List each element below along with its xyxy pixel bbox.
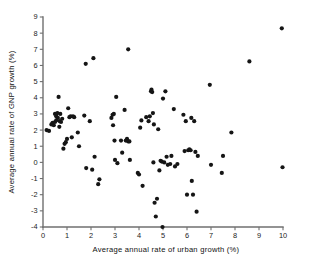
scatter-plot-figure: -4-3-2-10123456789 012345678910 Average … [0, 0, 312, 261]
data-point [156, 127, 160, 131]
y-tick-label: 9 [33, 12, 37, 21]
data-point [96, 182, 100, 186]
data-point [152, 122, 156, 126]
y-tick-label: -1 [31, 174, 38, 183]
data-point [111, 123, 115, 127]
y-tick-label: 6 [33, 61, 37, 70]
data-point [160, 225, 164, 229]
data-point [191, 193, 195, 197]
x-axis: 012345678910 [41, 227, 287, 240]
data-point [47, 129, 51, 133]
data-point [209, 163, 213, 167]
data-point [172, 107, 176, 111]
data-point [123, 108, 127, 112]
x-axis-ticks: 012345678910 [41, 227, 287, 240]
data-point [97, 177, 101, 181]
data-point [70, 135, 74, 139]
data-point [112, 112, 116, 116]
data-point [195, 210, 199, 214]
data-point [189, 116, 193, 120]
data-point [151, 160, 155, 164]
x-tick-label: 9 [257, 231, 261, 240]
data-point [161, 96, 165, 100]
y-tick-label: 7 [33, 45, 37, 54]
data-point [66, 106, 70, 110]
y-tick-label: 5 [33, 77, 37, 86]
data-point [181, 113, 185, 117]
data-point [139, 118, 143, 122]
data-point [221, 154, 225, 158]
data-point [88, 119, 92, 123]
y-tick-label: -3 [31, 206, 38, 215]
data-point [208, 83, 212, 87]
data-point [82, 113, 86, 117]
data-points-layer [45, 26, 285, 229]
x-tick-label: 5 [161, 231, 165, 240]
data-point [220, 171, 224, 175]
y-tick-label: 1 [33, 142, 37, 151]
data-point [126, 47, 130, 51]
data-point [90, 168, 94, 172]
data-point [190, 179, 194, 183]
data-point [144, 115, 148, 119]
x-axis-title: Average annual rate of urban growth (%) [93, 245, 240, 254]
data-point [128, 158, 132, 162]
data-point [183, 149, 187, 153]
data-point [280, 165, 284, 169]
x-tick-label: 7 [209, 231, 213, 240]
data-point [155, 197, 159, 201]
data-point [65, 137, 69, 141]
data-point [150, 90, 154, 94]
data-point [184, 119, 188, 123]
y-tick-label: 2 [33, 126, 37, 135]
data-point [147, 119, 151, 123]
data-point [193, 150, 197, 154]
data-point [115, 161, 119, 165]
data-point [185, 193, 189, 197]
data-point [141, 184, 145, 188]
y-tick-label: -2 [31, 190, 38, 199]
x-tick-label: 10 [279, 231, 287, 240]
data-point [247, 59, 251, 63]
y-tick-label: 3 [33, 109, 37, 118]
data-point [148, 114, 152, 118]
data-point [196, 154, 200, 158]
data-point [162, 160, 166, 164]
y-tick-label: 8 [33, 29, 37, 38]
data-point [175, 162, 179, 166]
data-point [58, 112, 62, 116]
data-point [57, 95, 61, 99]
data-point [57, 125, 61, 129]
data-point [163, 89, 167, 93]
data-point [280, 26, 284, 30]
data-point [229, 130, 233, 134]
data-point [192, 119, 196, 123]
data-point [154, 214, 158, 218]
data-point [60, 117, 64, 121]
y-tick-label: 0 [33, 158, 37, 167]
data-point [120, 151, 124, 155]
plot-canvas: -4-3-2-10123456789 012345678910 Average … [0, 0, 312, 261]
y-axis-ticks: -4-3-2-10123456789 [31, 12, 43, 231]
data-point [151, 111, 155, 115]
y-tick-label: -4 [31, 222, 38, 231]
x-tick-label: 0 [41, 231, 45, 240]
data-point [189, 148, 193, 152]
data-point [165, 155, 169, 159]
data-point [137, 172, 141, 176]
data-point [114, 95, 118, 99]
data-point [138, 126, 142, 130]
data-point [72, 115, 76, 119]
data-point [157, 168, 161, 172]
data-point [93, 155, 97, 159]
data-point [77, 144, 81, 148]
data-point [169, 154, 173, 158]
data-point [153, 201, 157, 205]
y-axis: -4-3-2-10123456789 [31, 12, 43, 231]
x-tick-label: 4 [137, 231, 141, 240]
y-axis-title: Average annual rate of GNP growth (%) [7, 50, 16, 193]
x-tick-label: 3 [113, 231, 117, 240]
data-point [168, 162, 172, 166]
x-tick-label: 6 [185, 231, 189, 240]
data-point [127, 139, 131, 143]
